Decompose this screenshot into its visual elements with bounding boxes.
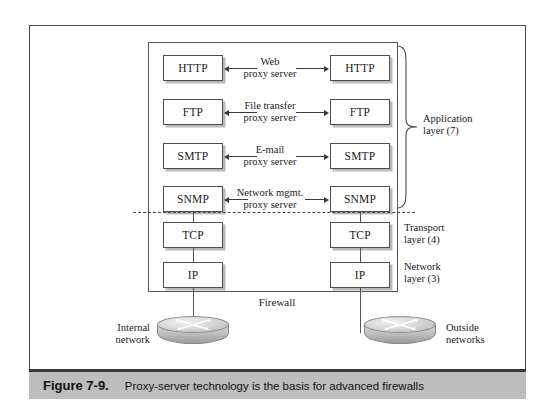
- proxy-label-ftp-line2: proxy server: [215, 112, 325, 124]
- layer-label-network-line1: Network: [404, 261, 441, 273]
- arrow-right-ftp: [296, 112, 324, 113]
- proxy-label-snmp-line2: proxy server: [215, 199, 325, 211]
- right-box-snmp: SNMP: [330, 186, 390, 212]
- router-outside-icon: [364, 316, 436, 350]
- layer-label-network: Network layer (3): [404, 261, 441, 285]
- network-label-outside-line2: networks: [446, 334, 485, 346]
- router-internal-arrows-icon: [157, 316, 229, 333]
- proxy-label-ftp-line1: File transfer: [215, 100, 325, 112]
- figure-number: Figure 7-9.: [43, 378, 109, 393]
- arrow-right-smtp: [296, 156, 324, 157]
- figure-caption-bar: Figure 7-9. Proxy-server technology is t…: [29, 369, 526, 399]
- firewall-label: Firewall: [0, 296, 554, 308]
- proxy-label-smtp-line1: E-mail: [215, 144, 325, 156]
- proxy-label-web-line1: Web: [215, 56, 325, 68]
- right-box-http: HTTP: [330, 55, 390, 81]
- layer-label-transport-line1: Transport: [404, 222, 444, 234]
- connector-left-tcp-ip: [193, 248, 194, 262]
- layer-label-application: Application layer (7): [423, 113, 473, 137]
- right-box-smtp: SMTP: [330, 143, 390, 169]
- connector-right-snmp-tcp: [360, 212, 361, 222]
- proxy-label-snmp-line1: Network mgmt.: [215, 187, 325, 199]
- left-box-ftp: FTP: [163, 99, 223, 125]
- layer-separator-dashed-line: [133, 212, 415, 213]
- proxy-label-web-line2: proxy server: [215, 68, 325, 80]
- router-internal-icon: [157, 316, 229, 350]
- arrow-left-ftp: [229, 112, 257, 113]
- left-box-smtp: SMTP: [163, 143, 223, 169]
- figure-caption-text: Proxy-server technology is the basis for…: [125, 380, 424, 392]
- connector-left-snmp-tcp: [193, 212, 194, 222]
- arrow-right-http: [296, 68, 324, 69]
- network-label-outside-line1: Outside: [446, 322, 485, 334]
- right-box-tcp: TCP: [330, 222, 390, 248]
- figure-page: HTTP FTP SMTP SNMP TCP IP HTTP FTP SMTP …: [0, 0, 554, 413]
- arrow-right-snmp: [305, 199, 324, 200]
- router-outside-arrows-icon: [364, 316, 436, 333]
- connector-right-tcp-ip: [360, 248, 361, 262]
- layer-label-application-line1: Application: [423, 113, 473, 125]
- arrow-left-http: [229, 68, 257, 69]
- left-box-snmp: SNMP: [163, 186, 223, 212]
- proxy-label-smtp-line2: proxy server: [215, 156, 325, 168]
- layer-label-network-line2: layer (3): [404, 273, 441, 285]
- right-box-ip: IP: [330, 262, 390, 288]
- layer-label-transport: Transport layer (4): [404, 222, 444, 246]
- connector-right-ip-router: [360, 288, 361, 333]
- arrow-left-smtp: [229, 156, 257, 157]
- network-label-internal: Internal network: [60, 322, 150, 346]
- arrow-left-snmp: [229, 199, 248, 200]
- layer-label-application-line2: layer (7): [423, 125, 473, 137]
- left-box-tcp: TCP: [163, 222, 223, 248]
- right-box-ftp: FTP: [330, 99, 390, 125]
- network-label-internal-line2: network: [60, 334, 150, 346]
- layer-label-transport-line2: layer (4): [404, 234, 444, 246]
- application-layer-brace-icon: [397, 44, 419, 210]
- left-box-http: HTTP: [163, 55, 223, 81]
- network-label-internal-line1: Internal: [60, 322, 150, 334]
- left-box-ip: IP: [163, 262, 223, 288]
- network-label-outside: Outside networks: [446, 322, 485, 346]
